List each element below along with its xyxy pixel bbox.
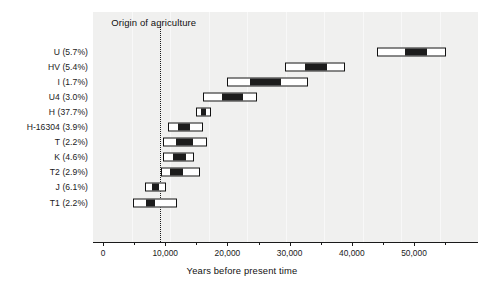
x-tick-minor (134, 242, 135, 245)
x-tick-minor (383, 242, 384, 245)
x-tick-minor (196, 242, 197, 245)
background-band (363, 12, 364, 242)
category-label: HV (5.4%) (0, 62, 88, 72)
background-band (247, 12, 248, 242)
interval-bar (377, 48, 446, 57)
interval-bar (163, 138, 207, 147)
interval-bar-core (405, 49, 427, 56)
interval-bar (168, 123, 203, 132)
plot-area (93, 12, 478, 242)
interval-bar (285, 63, 345, 72)
category-label: T (2.2%) (0, 137, 88, 147)
background-band (209, 12, 210, 242)
x-tick-label: 10,000 (152, 248, 178, 258)
x-tick-minor (259, 242, 260, 245)
interval-bar (196, 108, 212, 117)
x-tick (414, 242, 415, 246)
category-label: I (1.7%) (0, 77, 88, 87)
category-label: U (5.7%) (0, 47, 88, 57)
chart-figure: Origin of agriculture U (5.7%)HV (5.4%)I… (0, 0, 484, 287)
x-tick (352, 242, 353, 246)
interval-bar-core (250, 79, 281, 86)
x-tick-label: 0 (101, 248, 106, 258)
origin-of-agriculture-label: Origin of agriculture (111, 17, 196, 28)
category-label: H (37.7%) (0, 107, 88, 117)
x-tick (103, 242, 104, 246)
background-band (440, 12, 441, 242)
interval-bar-core (173, 154, 185, 161)
category-label: T2 (2.9%) (0, 167, 88, 177)
x-tick-minor (445, 242, 446, 245)
x-tick-label: 30,000 (277, 248, 303, 258)
x-axis-title: Years before present time (0, 265, 484, 276)
category-label: J (6.1%) (0, 182, 88, 192)
interval-bar-core (178, 124, 190, 131)
interval-bar-core (170, 169, 183, 176)
interval-bar (163, 153, 194, 162)
x-axis-line (93, 242, 478, 243)
category-label: H-16304 (3.9%) (0, 122, 88, 132)
interval-bar-core (176, 139, 193, 146)
background-band (286, 12, 287, 242)
x-tick-minor (321, 242, 322, 245)
category-label: T1 (2.2%) (0, 198, 88, 208)
x-tick (227, 242, 228, 246)
x-tick-label: 40,000 (339, 248, 365, 258)
origin-of-agriculture-line (160, 27, 161, 242)
interval-bar-core (201, 109, 206, 116)
interval-bar-core (146, 199, 155, 206)
x-tick (165, 242, 166, 246)
interval-bar (145, 183, 166, 192)
category-label: K (4.6%) (0, 152, 88, 162)
background-band (324, 12, 325, 242)
interval-bar-core (305, 64, 327, 71)
x-tick (290, 242, 291, 246)
interval-bar (203, 93, 257, 102)
interval-bar-core (222, 94, 243, 101)
interval-bar (161, 168, 200, 177)
x-tick-label: 20,000 (215, 248, 241, 258)
interval-bar (133, 198, 177, 207)
background-band (401, 12, 402, 242)
interval-bar (227, 78, 308, 87)
background-band (132, 12, 133, 242)
x-tick-label: 50,000 (401, 248, 427, 258)
category-label: U4 (3.0%) (0, 92, 88, 102)
interval-bar-core (152, 184, 159, 191)
